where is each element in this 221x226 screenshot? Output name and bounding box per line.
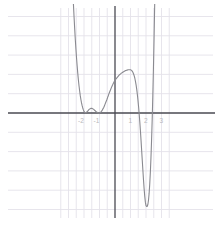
x-tick-label: -2 <box>78 118 84 125</box>
x-tick-label: 2 <box>144 118 148 125</box>
polynomial-graph-figure: -2-1123 <box>0 0 221 226</box>
axis-layer <box>8 6 215 218</box>
x-tick-label: 1 <box>129 118 133 125</box>
plot-canvas <box>0 0 221 226</box>
x-tick-label: 3 <box>160 118 164 125</box>
x-tick-label: -1 <box>94 118 100 125</box>
